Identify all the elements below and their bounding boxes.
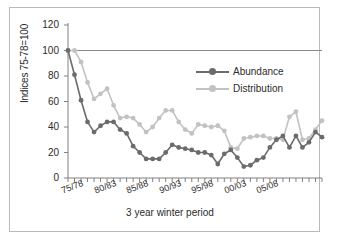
data-point-abundance — [176, 145, 181, 150]
data-point-distribution — [137, 122, 142, 127]
data-point-distribution — [320, 118, 325, 123]
x-axis-title: 3 year winter period — [40, 207, 300, 218]
data-point-abundance — [137, 150, 142, 155]
data-point-distribution — [294, 109, 299, 114]
data-point-abundance — [66, 48, 71, 53]
data-point-abundance — [248, 163, 253, 168]
data-point-distribution — [170, 108, 175, 113]
data-point-abundance — [163, 150, 168, 155]
data-point-abundance — [79, 98, 84, 103]
data-point-abundance — [98, 123, 103, 128]
data-point-distribution — [209, 125, 214, 130]
data-point-distribution — [131, 116, 136, 121]
data-point-distribution — [183, 127, 188, 132]
data-point-distribution — [72, 48, 77, 53]
data-point-abundance — [222, 151, 227, 156]
data-point-distribution — [300, 137, 305, 142]
data-point-abundance — [307, 140, 312, 145]
legend-marker-distribution — [196, 84, 229, 94]
data-point-abundance — [157, 156, 162, 161]
data-point-abundance — [261, 155, 266, 160]
data-point-distribution — [92, 97, 97, 102]
data-point-distribution — [105, 86, 110, 91]
data-point-abundance — [196, 150, 201, 155]
legend-item-abundance: Abundance — [196, 63, 284, 80]
legend-marker-abundance — [196, 67, 229, 77]
data-point-distribution — [176, 120, 181, 125]
legend-label-distribution: Distribution — [233, 83, 283, 94]
data-point-distribution — [111, 103, 116, 108]
data-point-abundance — [144, 156, 149, 161]
data-point-abundance — [320, 135, 325, 140]
data-point-abundance — [241, 164, 246, 169]
data-point-distribution — [189, 131, 194, 136]
data-point-distribution — [144, 130, 149, 135]
data-point-abundance — [287, 145, 292, 150]
data-point-abundance — [189, 148, 194, 153]
data-point-distribution — [287, 114, 292, 119]
data-point-distribution — [118, 116, 123, 121]
data-point-abundance — [72, 72, 77, 77]
data-point-abundance — [235, 155, 240, 160]
data-point-distribution — [235, 146, 240, 151]
data-point-abundance — [105, 120, 110, 125]
data-point-abundance — [215, 162, 220, 167]
data-point-abundance — [281, 134, 286, 139]
data-point-abundance — [85, 120, 90, 125]
data-point-distribution — [124, 114, 129, 119]
data-point-distribution — [222, 128, 227, 133]
data-point-abundance — [150, 156, 155, 161]
data-point-abundance — [111, 120, 116, 125]
chart-container: Indices 75-78=100 020406080100120 75/788… — [0, 0, 341, 250]
data-point-abundance — [294, 134, 299, 139]
data-point-abundance — [267, 145, 272, 150]
data-point-abundance — [202, 150, 207, 155]
data-point-abundance — [313, 130, 318, 135]
data-point-abundance — [183, 146, 188, 151]
data-point-abundance — [124, 131, 129, 136]
data-point-distribution — [196, 122, 201, 127]
legend-item-distribution: Distribution — [196, 80, 284, 97]
data-point-abundance — [92, 130, 97, 135]
data-point-distribution — [202, 123, 207, 128]
data-point-distribution — [157, 116, 162, 121]
data-point-abundance — [170, 142, 175, 147]
data-point-distribution — [215, 123, 220, 128]
legend-label-abundance: Abundance — [233, 66, 284, 77]
data-point-distribution — [150, 125, 155, 130]
data-point-abundance — [228, 148, 233, 153]
data-point-distribution — [98, 91, 103, 96]
data-point-distribution — [241, 136, 246, 141]
data-point-abundance — [118, 127, 123, 132]
data-point-distribution — [267, 136, 272, 141]
data-point-distribution — [261, 134, 266, 139]
data-point-distribution — [254, 134, 259, 139]
data-point-distribution — [248, 135, 253, 140]
data-point-abundance — [131, 144, 136, 149]
data-point-abundance — [274, 137, 279, 142]
data-point-distribution — [163, 108, 168, 113]
data-point-distribution — [85, 80, 90, 85]
data-point-distribution — [79, 60, 84, 65]
data-point-abundance — [254, 158, 259, 163]
data-point-abundance — [300, 145, 305, 150]
data-point-abundance — [209, 153, 214, 158]
chart-legend: Abundance Distribution — [196, 63, 284, 97]
